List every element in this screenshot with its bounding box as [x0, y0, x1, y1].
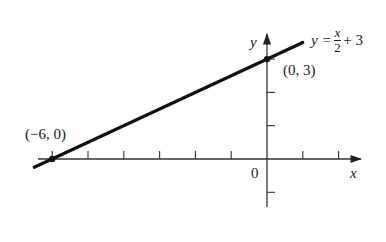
y-axis-ticks: [267, 59, 275, 192]
origin-label: 0: [251, 166, 259, 181]
equation-lhs: y =: [311, 33, 332, 48]
x-axis-label: x: [350, 166, 357, 181]
equation-fraction: x 2: [334, 26, 342, 54]
equation-numerator: x: [334, 26, 342, 41]
intercept-point: [264, 56, 270, 62]
equation-label: y = x 2 + 3: [311, 26, 363, 54]
equation-rest: + 3: [343, 33, 363, 48]
y-axis-label: y: [250, 35, 257, 50]
intercept-point: [49, 156, 55, 162]
x-axis-ticks: [52, 151, 338, 159]
point-label-y-intercept: (0, 3): [283, 63, 316, 78]
plot-line-y-eq-x-over-2-plus-3: [34, 42, 303, 167]
equation-denominator: 2: [334, 41, 341, 55]
point-label-x-intercept: (−6, 0): [25, 127, 66, 142]
